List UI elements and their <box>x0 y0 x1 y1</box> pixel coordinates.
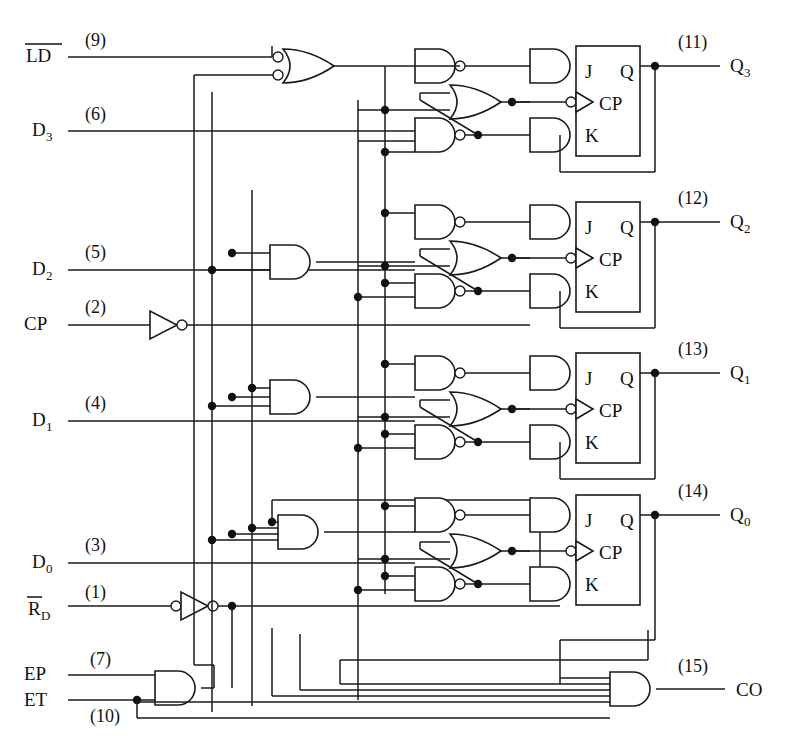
ff-label-q-q0: Q <box>620 510 634 531</box>
input-text-D1: D <box>32 409 46 430</box>
ff-label-k-q0: K <box>585 574 599 595</box>
output-text-Q2: Q <box>730 211 744 232</box>
input-sub-D1: 1 <box>46 419 53 434</box>
junction-dot <box>208 402 216 410</box>
input-text-ET: ET <box>24 689 48 710</box>
pin-number-D0: (3) <box>85 535 106 556</box>
vertical-bus-lines <box>212 46 415 712</box>
input-sub-RD: D <box>41 608 50 623</box>
junction-dot <box>208 536 216 544</box>
output-sub-Q2: 2 <box>744 221 751 236</box>
input-label-EP: EP (7) <box>24 649 111 684</box>
pin-number-ET: (10) <box>90 706 120 727</box>
stage-q3: J CP K Q <box>358 46 720 172</box>
input-text-D2: D <box>32 258 46 279</box>
ff-label-k-q1: K <box>585 432 599 453</box>
output-label-CO: (15) CO <box>678 656 762 700</box>
output-text-Q3: Q <box>730 55 744 76</box>
ff-label-q-q3: Q <box>620 61 634 82</box>
pin-number-EP: (7) <box>90 649 111 670</box>
output-label-Q3: (11) Q 3 <box>678 32 751 80</box>
output-sub-Q0: 0 <box>744 514 751 529</box>
pin-number-RD: (1) <box>85 582 106 603</box>
pin-number-Q0: (14) <box>678 481 708 502</box>
input-wires <box>68 57 415 700</box>
output-label-Q2: (12) Q 2 <box>678 188 751 236</box>
input-sub-D2: 2 <box>46 268 53 283</box>
ff-label-cp-q0: CP <box>599 542 622 563</box>
junction-dot <box>381 555 389 563</box>
schematic-canvas: LD (9) D 3 (6) D 2 (5) CP (2) D 1 (4) D … <box>0 0 785 740</box>
input-text-CP: CP <box>24 313 47 334</box>
input-text-RD: R <box>28 598 41 619</box>
input-sub-D0: 0 <box>46 561 53 576</box>
junction-dot <box>381 413 389 421</box>
enable-and-gate <box>133 665 610 718</box>
stage-q0: J CP K Q <box>208 495 720 684</box>
pin-number-Q3: (11) <box>678 32 707 53</box>
output-label-Q1: (13) Q 1 <box>678 339 751 387</box>
ff-label-cp-q3: CP <box>599 93 622 114</box>
junction-dot <box>381 106 389 114</box>
junction-dot <box>208 266 216 274</box>
pin-number-CP: (2) <box>85 297 106 318</box>
stage-q2: J CP K Q <box>208 202 720 328</box>
cp-inverter <box>150 311 530 339</box>
input-label-D0: D 0 (3) <box>32 535 106 576</box>
ff-label-j-q3: J <box>585 61 592 82</box>
input-label-ET: ET (10) <box>24 689 120 727</box>
ff-label-q-q1: Q <box>620 368 634 389</box>
junction-dot <box>381 430 389 438</box>
ff-label-k-q3: K <box>585 125 599 146</box>
input-label-D1: D 1 (4) <box>32 393 106 434</box>
pin-number-D3: (6) <box>85 104 106 125</box>
ff-label-cp-q2: CP <box>599 249 622 270</box>
junction-dot <box>248 524 256 532</box>
pin-number-D2: (5) <box>85 242 106 263</box>
junction-dot <box>228 393 236 401</box>
output-text-Q0: Q <box>730 504 744 525</box>
output-text-CO: CO <box>736 679 762 700</box>
rd-inverter <box>171 592 560 620</box>
output-text-Q1: Q <box>730 362 744 383</box>
junction-dot <box>248 384 256 392</box>
output-sub-Q1: 1 <box>744 372 751 387</box>
ff-label-cp-q1: CP <box>599 400 622 421</box>
junction-dot <box>228 530 236 538</box>
input-text-D3: D <box>32 119 46 140</box>
junction-dot <box>381 572 389 580</box>
input-label-LD: LD (9) <box>25 30 106 66</box>
input-text-EP: EP <box>24 663 46 684</box>
junction-dot <box>381 279 389 287</box>
ff-label-j-q0: J <box>585 510 592 531</box>
pin-number-Q1: (13) <box>678 339 708 360</box>
input-label-D2: D 2 (5) <box>32 242 106 283</box>
pin-number-D1: (4) <box>85 393 106 414</box>
input-sub-D3: 3 <box>46 129 53 144</box>
ff-label-j-q2: J <box>585 217 592 238</box>
logic-diagram: LD (9) D 3 (6) D 2 (5) CP (2) D 1 (4) D … <box>0 0 785 740</box>
input-label-RD: R D (1) <box>27 582 106 623</box>
ff-label-k-q2: K <box>585 281 599 302</box>
ff-label-j-q1: J <box>585 368 592 389</box>
input-label-D3: D 3 (6) <box>32 104 106 144</box>
output-sub-Q3: 3 <box>744 65 751 80</box>
pin-number-Q2: (12) <box>678 188 708 209</box>
output-label-Q0: (14) Q 0 <box>678 481 751 529</box>
input-text-D0: D <box>32 551 46 572</box>
ff-label-q-q2: Q <box>620 217 634 238</box>
junction-dot <box>381 262 389 270</box>
input-text-LD: LD <box>26 45 51 66</box>
pin-number-LD: (9) <box>85 30 106 51</box>
pin-number-CO: (15) <box>678 656 708 677</box>
stage-q1: J CP K Q <box>208 353 720 479</box>
junction-dot <box>228 249 236 257</box>
input-label-CP: CP (2) <box>24 297 106 334</box>
